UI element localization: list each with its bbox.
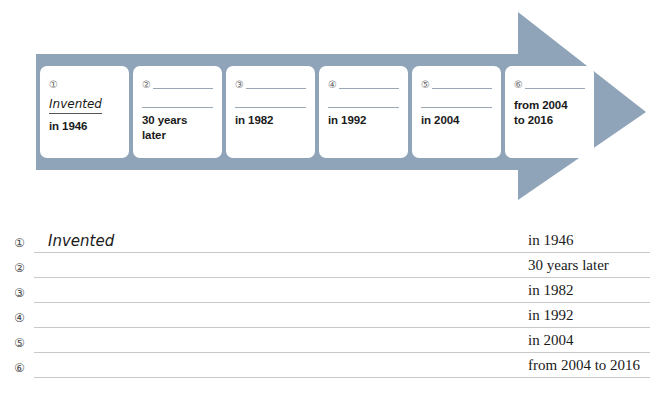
card-2-blank-line-mid[interactable] [142, 107, 213, 108]
answer-row-6-number: ⑥ [14, 362, 34, 378]
answer-row-4-number: ④ [14, 312, 34, 328]
answer-row-3-writing-line[interactable]: in 1982 [34, 277, 650, 303]
card-4-blank-line-mid[interactable] [328, 107, 399, 108]
answer-row-2-writing-line[interactable]: 30 years later [34, 252, 650, 278]
card-5-blank-line-mid[interactable] [421, 107, 492, 108]
card-4-answer-text: in 1992 [328, 113, 399, 128]
card-2-number: ② [142, 80, 151, 90]
card-3-answer-text: in 1982 [235, 113, 306, 128]
card-6-number-row: ⑥ [514, 78, 585, 91]
answer-row-4: ④ in 1992 [14, 303, 650, 328]
answer-row-5: ⑤ in 2004 [14, 328, 650, 353]
card-1-handwritten-answer: Invented [49, 97, 102, 114]
card-5-answer-text: in 2004 [421, 113, 492, 128]
card-4-blank-line-top[interactable] [339, 88, 399, 89]
card-3-blank-line-top[interactable] [246, 88, 306, 89]
answer-row-2: ② 30 years later [14, 253, 650, 278]
card-1-number: ① [49, 80, 58, 90]
answer-row-3: ③ in 1982 [14, 278, 650, 303]
answer-row-5-label: in 2004 [528, 333, 573, 352]
card-2-number-row: ② [142, 78, 213, 91]
answer-row-5-writing-line[interactable]: in 2004 [34, 327, 650, 353]
timeline-card-2[interactable]: ② 30 years later [133, 66, 222, 158]
answer-row-3-label: in 1982 [528, 283, 573, 302]
card-4-number-row: ④ [328, 78, 399, 91]
answer-list: ① Invented in 1946 ② 30 years later ③ in… [14, 228, 650, 378]
card-5-number: ⑤ [421, 80, 430, 90]
card-3-number-row: ③ [235, 78, 306, 91]
timeline-card-1[interactable]: ① Invented in 1946 [40, 66, 129, 158]
answer-row-2-number: ② [14, 262, 34, 278]
card-3-number: ③ [235, 80, 244, 90]
card-2-blank-line-top[interactable] [153, 88, 213, 89]
timeline-card-3[interactable]: ③ in 1982 [226, 66, 315, 158]
answer-row-6-writing-line[interactable]: from 2004 to 2016 [34, 352, 650, 378]
answer-row-2-label: 30 years later [528, 258, 609, 277]
timeline-card-4[interactable]: ④ in 1992 [319, 66, 408, 158]
card-1-answer-text: in 1946 [49, 119, 120, 134]
card-3-blank-line-mid[interactable] [235, 107, 306, 108]
answer-row-1-written-text: Invented [34, 234, 114, 252]
card-5-number-row: ⑤ [421, 78, 492, 91]
card-6-answer-text: from 2004 to 2016 [514, 98, 585, 128]
card-4-number: ④ [328, 80, 337, 90]
answer-row-1-writing-line[interactable]: Invented in 1946 [34, 227, 650, 253]
answer-row-1-number: ① [14, 237, 34, 253]
timeline-card-6[interactable]: ⑥ from 2004 to 2016 [505, 66, 594, 158]
answer-row-1: ① Invented in 1946 [14, 228, 650, 253]
timeline-arrow-diagram: ① Invented in 1946 ② 30 years later ③ in… [0, 0, 663, 210]
card-2-answer-text: 30 years later [142, 113, 213, 143]
answer-row-3-number: ③ [14, 287, 34, 303]
card-5-blank-line-top[interactable] [432, 88, 492, 89]
timeline-card-5[interactable]: ⑤ in 2004 [412, 66, 501, 158]
card-6-blank-line-top[interactable] [525, 88, 585, 89]
timeline-cards-row: ① Invented in 1946 ② 30 years later ③ in… [40, 66, 640, 158]
card-6-number: ⑥ [514, 80, 523, 90]
answer-row-5-number: ⑤ [14, 337, 34, 353]
answer-row-4-writing-line[interactable]: in 1992 [34, 302, 650, 328]
answer-row-4-label: in 1992 [528, 308, 573, 327]
answer-row-6-label: from 2004 to 2016 [528, 358, 640, 377]
answer-row-1-label: in 1946 [528, 233, 573, 252]
card-1-number-row: ① [49, 78, 120, 91]
card-1-blank-line-top[interactable] [60, 88, 120, 89]
answer-row-6: ⑥ from 2004 to 2016 [14, 353, 650, 378]
